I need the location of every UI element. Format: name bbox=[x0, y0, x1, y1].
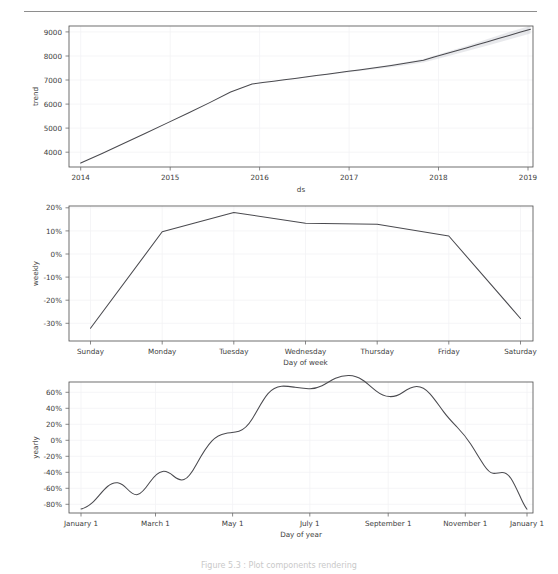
trend-xtick-label: 2019 bbox=[519, 173, 538, 182]
weekly-xtick-label: Monday bbox=[148, 347, 177, 356]
prophet-components-figure: 4000 5000 6000 7000 8000 9000 2014 2015 … bbox=[0, 0, 558, 574]
trend-xtick-label: 2015 bbox=[161, 173, 179, 182]
yearly-xtick-label: January 1 bbox=[509, 519, 544, 528]
weekly-yaxis-title: weekly bbox=[31, 260, 40, 286]
yearly-ytick-marks bbox=[66, 392, 70, 504]
yearly-yaxis-title: yearly bbox=[31, 436, 40, 459]
trend-xtick-marks bbox=[81, 167, 528, 171]
yearly-ytick-label: -40% bbox=[43, 468, 62, 477]
trend-ytick-label: 6000 bbox=[44, 100, 63, 109]
yearly-ytick-label: 60% bbox=[46, 388, 62, 397]
trend-ytick-label: 9000 bbox=[44, 28, 63, 37]
yearly-ytick-label: -60% bbox=[43, 484, 62, 493]
trend-xtick-label: 2017 bbox=[340, 173, 358, 182]
weekly-xtick-marks bbox=[91, 341, 521, 345]
weekly-ytick-label: 10% bbox=[46, 227, 62, 236]
weekly-ytick-marks bbox=[66, 208, 70, 323]
yearly-ytick-label: -80% bbox=[43, 500, 62, 509]
yearly-gridlines bbox=[69, 382, 533, 513]
weekly-ytick-label: -20% bbox=[43, 296, 62, 305]
trend-uncertainty-band bbox=[81, 26, 531, 163]
trend-xaxis-title: ds bbox=[297, 185, 306, 194]
yearly-xtick-label: January 1 bbox=[63, 519, 98, 528]
yearly-xtick-label: November 1 bbox=[443, 519, 487, 528]
yearly-xaxis-title: Day of year bbox=[280, 530, 322, 539]
weekly-ytick-label: 20% bbox=[46, 203, 62, 212]
weekly-xtick-label: Tuesday bbox=[218, 347, 249, 356]
weekly-xtick-label: Sunday bbox=[77, 347, 105, 356]
weekly-xtick-label: Wednesday bbox=[285, 347, 327, 356]
trend-ytick-label: 8000 bbox=[44, 52, 63, 61]
weekly-ytick-label: -30% bbox=[43, 319, 62, 328]
trend-line bbox=[81, 29, 531, 163]
yearly-xtick-marks bbox=[81, 513, 527, 517]
yearly-xtick-label: March 1 bbox=[141, 519, 170, 528]
trend-xtick-label: 2018 bbox=[429, 173, 448, 182]
panel-trend: 4000 5000 6000 7000 8000 9000 2014 2015 … bbox=[31, 26, 538, 194]
yearly-ytick-label: 0% bbox=[51, 436, 63, 445]
trend-xtick-label: 2014 bbox=[72, 173, 91, 182]
trend-xtick-label: 2016 bbox=[250, 173, 269, 182]
weekly-xaxis-title: Day of week bbox=[283, 358, 328, 367]
figure-caption: Figure 5.3 : Plot components rendering bbox=[0, 561, 558, 570]
weekly-axes-frame bbox=[69, 206, 533, 341]
trend-ytick-label: 7000 bbox=[44, 76, 63, 85]
trend-ytick-marks bbox=[66, 32, 70, 152]
yearly-xtick-label: May 1 bbox=[222, 519, 244, 528]
weekly-ytick-label: 0% bbox=[51, 250, 63, 259]
trend-ytick-label: 5000 bbox=[44, 124, 63, 133]
components-plot-svg: 4000 5000 6000 7000 8000 9000 2014 2015 … bbox=[0, 0, 558, 574]
weekly-xtick-label: Saturday bbox=[504, 347, 537, 356]
figure-page: 4000 5000 6000 7000 8000 9000 2014 2015 … bbox=[0, 0, 558, 574]
yearly-ytick-label: 40% bbox=[46, 404, 62, 413]
trend-yaxis-title: trend bbox=[31, 87, 40, 106]
weekly-xtick-label: Thursday bbox=[359, 347, 394, 356]
yearly-xtick-label: September 1 bbox=[365, 519, 412, 528]
yearly-ytick-label: 20% bbox=[46, 420, 62, 429]
weekly-ytick-label: -10% bbox=[43, 273, 62, 282]
yearly-xtick-label: July 1 bbox=[299, 519, 320, 528]
panel-weekly: 20% 10% 0% -10% -20% -30% Sunday Monday … bbox=[31, 203, 537, 366]
weekly-gridlines bbox=[69, 206, 533, 341]
panel-yearly: 60% 40% 20% 0% -20% -40% -60% -80% Janua… bbox=[31, 376, 544, 539]
weekly-xtick-label: Friday bbox=[438, 347, 461, 356]
yearly-ytick-label: -20% bbox=[43, 452, 62, 461]
trend-ytick-label: 4000 bbox=[44, 148, 63, 157]
yearly-line bbox=[81, 376, 527, 510]
yearly-axes-frame bbox=[69, 382, 533, 513]
